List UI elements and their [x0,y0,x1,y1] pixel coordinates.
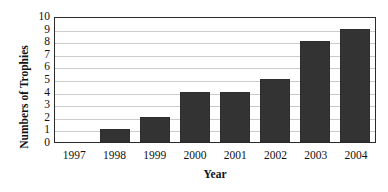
y-tick-label: 8 [30,35,50,48]
bar-slot [295,18,335,142]
y-tick-label: 10 [30,10,50,23]
bar [300,41,330,142]
y-tick-label: 9 [30,23,50,36]
x-tick-label: 1998 [94,147,134,163]
y-tick-label: 3 [30,98,50,111]
x-tick-label: 2002 [255,147,295,163]
bar-chart-figure: Numbers of Trophies 109876543210 1997199… [0,0,388,192]
x-tick-label: 1999 [135,147,175,163]
y-tick-label: 5 [30,73,50,86]
x-tick-label: 1997 [54,147,94,163]
x-axis-tick-labels: 19971998199920002001200220032004 [54,147,376,163]
bar-slot [175,18,215,142]
x-axis-title: Year [54,168,376,180]
bar-series [55,18,375,142]
x-tick-label: 2000 [175,147,215,163]
y-tick-label: 4 [30,86,50,99]
bar [140,117,170,142]
y-tick-label: 6 [30,60,50,73]
y-axis-tick-labels: 109876543210 [30,17,50,143]
bar [260,79,290,142]
bar-slot [335,18,375,142]
y-tick-label: 2 [30,111,50,124]
bar-slot [95,18,135,142]
bar-slot [55,18,95,142]
y-tick-label: 0 [30,136,50,149]
bar-slot [255,18,295,142]
bar-slot [215,18,255,142]
y-tick-label: 1 [30,123,50,136]
bar [220,92,250,142]
x-tick-label: 2003 [296,147,336,163]
bar-slot [135,18,175,142]
y-tick-label: 7 [30,48,50,61]
bar [180,92,210,142]
x-tick-label: 2001 [215,147,255,163]
bar [100,129,130,142]
x-tick-label: 2004 [336,147,376,163]
plot-area [54,17,376,143]
bar [340,29,370,142]
